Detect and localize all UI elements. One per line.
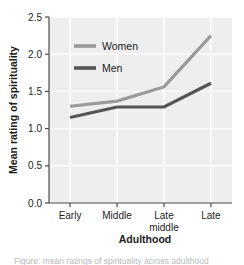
x-tick-label: Latemiddle [149, 210, 179, 233]
y-tick-label: 1.5 [28, 86, 42, 97]
spirituality-line-chart: 0.00.51.01.52.02.5 EarlyMiddleLatemiddle… [0, 0, 244, 265]
y-tick-label: 0.5 [28, 160, 42, 171]
x-tick-label: Middle [102, 210, 132, 221]
caption-text: Figure: mean ratings of spirituality acr… [14, 256, 209, 265]
x-axis-tick-labels: EarlyMiddleLatemiddleLate [59, 210, 221, 233]
x-tick-label: Late [201, 210, 221, 221]
legend-label-men: Men [102, 62, 123, 74]
y-tick-label: 1.0 [28, 123, 42, 134]
y-axis-title: Mean rating of spirituality [7, 46, 19, 174]
y-tick-label: 0.0 [28, 198, 42, 209]
legend-label-women: Women [102, 40, 138, 52]
figure-container: 0.00.51.01.52.02.5 EarlyMiddleLatemiddle… [0, 0, 244, 265]
y-axis-tick-labels: 0.00.51.01.52.02.5 [28, 12, 42, 209]
x-axis-title: Adulthood [119, 233, 171, 245]
x-axis-ticks [70, 203, 211, 207]
y-tick-label: 2.0 [28, 49, 42, 60]
y-tick-label: 2.5 [28, 12, 42, 23]
figure-caption: Figure: mean ratings of spirituality acr… [14, 256, 209, 265]
x-tick-label: Early [59, 210, 82, 221]
